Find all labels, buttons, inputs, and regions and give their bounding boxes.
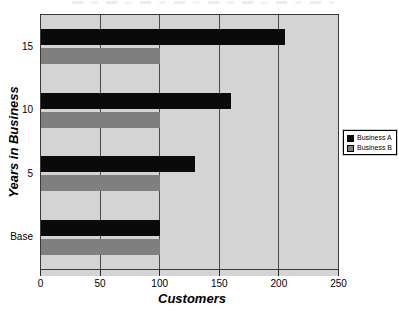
x-tick-label-100: 100 [151, 278, 168, 290]
bar-business-b-15 [41, 48, 160, 64]
cropped-title-artifact [72, 1, 334, 4]
x-tick-mark-100 [159, 270, 160, 276]
x-tick-mark-0 [40, 270, 41, 276]
business-b-swatch [347, 145, 354, 152]
business-a-swatch [347, 135, 354, 142]
x-tick-label-250: 250 [330, 278, 347, 290]
gridline-150 [219, 15, 220, 269]
bar-business-a-5 [41, 156, 195, 172]
plot-area [40, 14, 339, 270]
x-axis-title: Customers [158, 291, 226, 306]
y-tick-label-5: 5 [0, 168, 36, 180]
bar-business-a-10 [41, 93, 231, 109]
bar-business-a-15 [41, 29, 285, 45]
legend-item-business-a: Business A [347, 134, 393, 142]
gridline-200 [278, 15, 279, 269]
bar-business-a-base [41, 220, 160, 236]
x-tick-label-150: 150 [211, 278, 228, 290]
bar-chart: Years in Business Customers Business A B… [0, 0, 399, 311]
x-tick-label-200: 200 [271, 278, 288, 290]
y-tick-label-10: 10 [0, 104, 36, 116]
y-tick-label-base: Base [0, 231, 36, 243]
legend-item-business-b: Business B [347, 144, 393, 152]
y-tick-label-15: 15 [0, 41, 36, 53]
legend-label-business-b: Business B [357, 144, 392, 152]
x-tick-mark-200 [278, 270, 279, 276]
x-axis-tick-strip [40, 270, 339, 276]
x-tick-label-0: 0 [38, 278, 44, 290]
x-tick-mark-150 [219, 270, 220, 276]
y-axis-title: Years in Business [6, 86, 21, 198]
x-tick-mark-250 [338, 270, 339, 276]
bar-business-b-5 [41, 175, 160, 191]
legend-label-business-a: Business A [357, 134, 392, 142]
legend: Business A Business B [343, 130, 397, 155]
bar-business-b-base [41, 239, 160, 255]
x-tick-mark-50 [100, 270, 101, 276]
bar-business-b-10 [41, 112, 160, 128]
x-tick-label-50: 50 [95, 278, 106, 290]
